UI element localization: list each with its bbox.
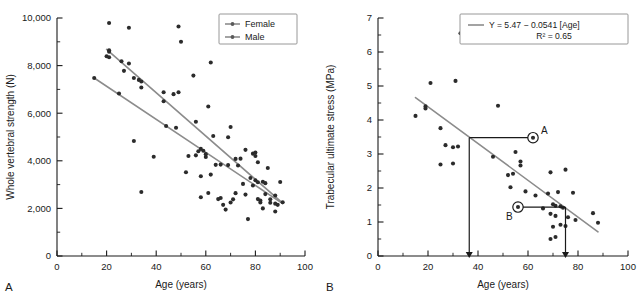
y-tick-label: 2 [367,182,372,193]
y-tick-label: 7 [367,12,372,23]
data-point [561,206,565,210]
panel-b-plot: 02040608010001234567 AB Y = 5.47 − 0.054… [320,0,641,298]
data-point [453,79,457,83]
data-point [423,106,427,110]
data-point [92,76,96,80]
regression-equation-label: Y = 5.47 − 0.0541 [Age] [489,20,580,30]
panel-a-x-axis-title: Age (years) [155,279,207,290]
data-point [204,155,208,159]
data-point [139,190,143,194]
r-squared-label: R² = 0.65 [536,31,572,41]
data-point [176,25,180,29]
data-point [164,124,168,128]
data-point [263,181,267,185]
data-point [438,162,442,166]
data-point [563,168,567,172]
data-point [263,192,267,196]
panel-a-legend: FemaleMale [219,14,297,44]
data-point [548,170,552,174]
data-point [551,225,555,229]
data-point [152,155,156,159]
data-point [553,235,557,239]
data-point [508,185,512,189]
y-tick-label: 10,000 [22,12,51,23]
data-point [273,209,277,213]
panel-b-y-axis-title: Trabecular ultimate stress (MPa) [325,65,336,210]
panel-a-y-axis-title: Whole vertebral strength (N) [5,74,16,200]
data-point [209,173,213,177]
data-point [516,205,520,209]
y-tick-label: 6,000 [27,108,51,119]
data-point [211,134,215,138]
data-point [107,50,111,54]
y-tick-label: 2,000 [27,203,51,214]
data-point [194,120,198,124]
y-tick-label: 4 [367,114,372,125]
y-tick-label: 0 [46,250,51,261]
data-point [199,195,203,199]
data-point [553,214,557,218]
data-point [531,136,535,140]
data-point [256,160,260,164]
panel-b: 02040608010001234567 AB Y = 5.47 − 0.054… [320,0,641,298]
x-tick-label: 0 [375,261,380,272]
data-point [184,170,188,174]
data-point [219,196,223,200]
data-point [548,237,552,241]
data-point [206,191,210,195]
data-point [278,180,282,184]
data-point [261,206,265,210]
data-point [229,125,233,129]
data-point [162,99,166,103]
data-point [209,60,213,64]
x-tick-label: 40 [473,261,484,272]
x-tick-label: 100 [620,261,636,272]
data-point [496,104,500,108]
x-tick-label: 80 [250,261,261,272]
data-point [558,223,562,227]
data-point [234,157,238,161]
data-point [571,191,575,195]
panel-b-x-axis-title: Age (years) [477,279,529,290]
y-tick-label: 8,000 [27,60,51,71]
panel-b-data-points [413,31,600,241]
x-tick-label: 40 [151,261,162,272]
data-point [234,191,238,195]
legend-label: Male [245,32,265,42]
data-point [221,203,225,207]
data-point [174,126,178,130]
y-tick-label: 5 [367,80,372,91]
data-point [162,90,166,94]
data-point [428,81,432,85]
x-tick-label: 80 [573,261,584,272]
data-point [413,114,417,118]
panel-a-plot: 02040608010002,0004,0006,0008,00010,000 … [0,0,320,298]
data-point [443,143,447,147]
data-point [546,191,550,195]
data-point [172,92,176,96]
y-tick-label: 6 [367,46,372,57]
data-point [226,135,230,139]
data-point [107,55,111,59]
data-point [214,163,218,167]
panel-b-axes [378,18,628,256]
panel-b-letter: B [326,281,334,293]
data-point [191,74,195,78]
data-point [132,139,136,143]
panel-b-legend: Y = 5.47 − 0.0541 [Age]R² = 0.65 [460,14,628,44]
data-point [506,173,510,177]
annotation-label-a: A [541,125,548,136]
data-point [201,149,205,153]
data-point [273,202,277,206]
data-point [186,154,190,158]
data-point [591,211,595,215]
data-point [533,193,537,197]
data-point [199,174,203,178]
data-point [117,91,121,95]
data-point [251,184,255,188]
data-point [127,26,131,30]
data-point [132,76,136,80]
data-point [451,145,455,149]
figure-container: 02040608010002,0004,0006,0008,00010,000 … [0,0,641,298]
data-point [456,144,460,148]
